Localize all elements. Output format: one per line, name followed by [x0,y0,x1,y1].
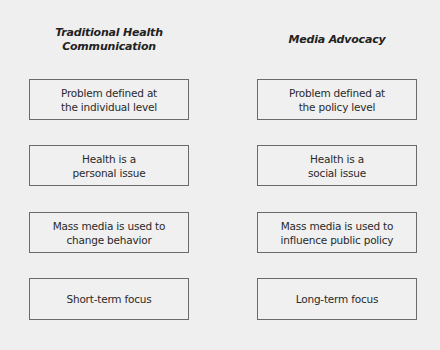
advocacy-box-health-issue: Health is a social issue [257,145,417,186]
advocacy-box-focus: Long-term focus [257,278,417,320]
traditional-box-health-issue: Health is a personal issue [29,145,189,186]
advocacy-box-problem-definition: Problem defined at the policy level [257,79,417,120]
box-text: Short-term focus [66,292,151,306]
box-text: Health is a social issue [308,152,366,180]
box-text: Mass media is used to change behavior [53,219,165,247]
traditional-box-mass-media-use: Mass media is used to change behavior [29,212,189,253]
heading-traditional-health-communication: Traditional Health Communication [29,26,189,54]
advocacy-box-mass-media-use: Mass media is used to influence public p… [257,212,417,253]
box-text: Problem defined at the individual level [61,86,157,114]
heading-media-advocacy: Media Advocacy [257,33,417,47]
box-text: Health is a personal issue [73,152,146,180]
traditional-box-focus: Short-term focus [29,278,189,320]
box-text: Mass media is used to influence public p… [281,219,394,247]
box-text: Long-term focus [296,292,379,306]
box-text: Problem defined at the policy level [289,86,385,114]
traditional-box-problem-definition: Problem defined at the individual level [29,79,189,120]
